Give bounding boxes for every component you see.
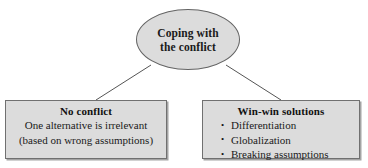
root-label-line-2: the conflict (160, 40, 216, 54)
connector-left (96, 65, 151, 100)
node-root-coping-with-the-conflict[interactable]: Coping with the conflict (136, 9, 240, 70)
diagram-canvas: Coping with the conflict No conflict One… (0, 0, 368, 168)
no-conflict-title: No conflict (6, 104, 166, 118)
node-no-conflict[interactable]: No conflict One alternative is irrelevan… (5, 100, 167, 159)
node-win-win-solutions[interactable]: Win-win solutions Differentiation Global… (202, 100, 360, 159)
list-item: Globalization (221, 133, 359, 148)
root-label-line-1: Coping with (157, 26, 219, 40)
no-conflict-line-2: (based on wrong assumptions) (6, 133, 166, 148)
connector-right (226, 65, 281, 100)
list-item: Breaking assumptions (221, 147, 359, 162)
list-item: Differentiation (221, 118, 359, 133)
no-conflict-line-1: One alternative is irrelevant (6, 118, 166, 133)
win-win-title: Win-win solutions (203, 104, 359, 118)
win-win-bullet-list: Differentiation Globalization Breaking a… (203, 118, 359, 162)
